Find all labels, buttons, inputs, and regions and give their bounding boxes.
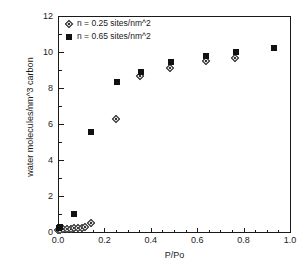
- y-tick-minor: [59, 106, 62, 107]
- data-point-series-2: [138, 69, 144, 75]
- data-point-series-2: [271, 45, 277, 51]
- x-tick-major: [290, 228, 291, 233]
- x-tick-minor: [255, 230, 256, 233]
- x-tick-major: [151, 228, 152, 233]
- x-tick-major: [104, 228, 105, 233]
- y-tick-minor: [59, 178, 62, 179]
- chart-figure: 024681012 0.00.20.40.60.81.0 P/Po water …: [0, 0, 308, 275]
- data-point-series-2: [71, 211, 77, 217]
- legend-label-series-2: n = 0.65 sites/nm^2: [77, 32, 151, 41]
- data-point-series-2: [114, 79, 120, 85]
- chart-legend: n = 0.25 sites/nm^2 n = 0.65 sites/nm^2: [64, 18, 151, 44]
- x-tick-label: 0.2: [89, 236, 119, 245]
- x-tick-minor: [162, 230, 163, 233]
- x-tick-label: 0.4: [136, 236, 166, 245]
- y-tick-minor: [59, 214, 62, 215]
- x-tick-label: 0.0: [43, 236, 73, 245]
- y-tick-major: [59, 196, 64, 197]
- x-tick-minor: [267, 230, 268, 233]
- x-tick-minor: [128, 230, 129, 233]
- x-tick-minor: [139, 230, 140, 233]
- x-tick-label: 1.0: [275, 236, 305, 245]
- legend-item-series-2: n = 0.65 sites/nm^2: [64, 31, 151, 42]
- y-tick-minor: [59, 34, 62, 35]
- x-tick-minor: [278, 230, 279, 233]
- x-tick-minor: [186, 230, 187, 233]
- legend-item-series-1: n = 0.25 sites/nm^2: [64, 18, 151, 29]
- y-axis-title: water molecules/nm^3 carbon: [25, 17, 35, 217]
- y-tick-major: [59, 160, 64, 161]
- filled-square-marker-icon: [64, 32, 74, 42]
- x-tick-minor: [116, 230, 117, 233]
- plot-border-top: [58, 16, 291, 17]
- plot-area: [58, 16, 290, 232]
- y-tick-major: [59, 88, 64, 89]
- x-tick-minor: [93, 230, 94, 233]
- legend-label-series-1: n = 0.25 sites/nm^2: [77, 19, 151, 28]
- data-point-series-2: [203, 53, 209, 59]
- y-tick-minor: [59, 70, 62, 71]
- x-axis-title: P/Po: [58, 250, 291, 260]
- y-tick-major: [59, 16, 64, 17]
- plot-border-right: [290, 16, 291, 233]
- y-tick-major: [59, 52, 64, 53]
- data-point-series-2: [57, 224, 63, 230]
- x-tick-major: [244, 228, 245, 233]
- x-tick-major: [197, 228, 198, 233]
- data-point-series-2: [233, 49, 239, 55]
- x-tick-minor: [174, 230, 175, 233]
- x-tick-label: 0.8: [229, 236, 259, 245]
- x-tick-minor: [232, 230, 233, 233]
- y-tick-minor: [59, 142, 62, 143]
- open-diamond-marker-icon: [64, 19, 74, 29]
- x-tick-minor: [220, 230, 221, 233]
- data-point-series-2: [168, 59, 174, 65]
- x-tick-label: 0.6: [182, 236, 212, 245]
- y-tick-major: [59, 124, 64, 125]
- x-tick-minor: [209, 230, 210, 233]
- data-point-series-2: [88, 129, 94, 135]
